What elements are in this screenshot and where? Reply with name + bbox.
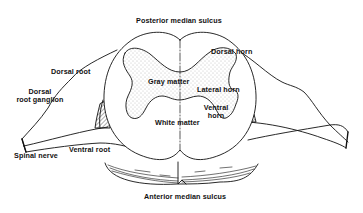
spinal-cord-diagram: Posterior median sulcus Dorsal root Dors… — [0, 0, 363, 213]
diagram-artwork — [0, 0, 363, 213]
label-dorsal-horn: Dorsal horn — [211, 48, 252, 56]
label-ventral-horn-line2: horn — [200, 112, 232, 120]
label-gray-matter: Gray matter — [148, 78, 189, 86]
label-spinal-nerve: Spinal nerve — [14, 152, 58, 160]
label-dorsal-root-ganglion: Dorsal root ganglion — [15, 88, 65, 104]
label-dorsal-root-ganglion-line2: root ganglion — [15, 96, 65, 104]
label-white-matter: White matter — [155, 119, 200, 127]
label-ventral-root: Ventral root — [69, 146, 110, 154]
label-lateral-horn: Lateral horn — [197, 86, 240, 94]
label-anterior-median-sulcus: Anterior median sulcus — [144, 193, 226, 201]
label-posterior-median-sulcus: Posterior median sulcus — [136, 17, 222, 25]
label-dorsal-root: Dorsal root — [51, 68, 90, 76]
label-ventral-horn: Ventral horn — [200, 104, 232, 120]
